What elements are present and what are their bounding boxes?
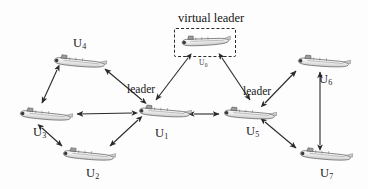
submarine-u2 bbox=[63, 147, 116, 161]
submarine-hull bbox=[298, 58, 349, 68]
submarine-sail bbox=[27, 108, 33, 112]
node-label-u2: U2 bbox=[86, 166, 99, 181]
submarine-u7 bbox=[300, 147, 353, 161]
node-label-base: U bbox=[73, 36, 82, 50]
leader-label-right: leader bbox=[243, 85, 271, 97]
submarine-sail bbox=[61, 55, 67, 59]
submarine-hull bbox=[224, 110, 275, 120]
submarine-hull bbox=[300, 150, 351, 161]
node-label-base: U bbox=[199, 58, 205, 67]
submarine-sail bbox=[231, 107, 237, 111]
node-label-base: U bbox=[319, 72, 328, 86]
submarine-u3 bbox=[20, 107, 73, 121]
node-label-base: U bbox=[33, 125, 42, 139]
submarine-sail bbox=[187, 36, 193, 40]
leader-label-left: leader bbox=[127, 83, 155, 95]
node-label-index: 3 bbox=[42, 131, 46, 140]
submarine-hull bbox=[139, 108, 190, 118]
nodes-layer bbox=[0, 0, 368, 189]
node-label-index: 5 bbox=[255, 130, 259, 139]
node-label-base: U bbox=[320, 166, 329, 180]
submarine-u0 bbox=[182, 33, 231, 47]
node-label-index: 1 bbox=[164, 132, 168, 141]
node-label-index: 7 bbox=[329, 172, 333, 181]
node-label-index: 4 bbox=[82, 42, 86, 51]
submarine-sail bbox=[307, 148, 313, 152]
submarine-hull bbox=[20, 110, 71, 121]
submarine-u6 bbox=[298, 55, 351, 68]
diagram-canvas: U0U1U2U3U4U5U6U7 virtual leader leader l… bbox=[0, 0, 368, 189]
node-label-base: U bbox=[86, 166, 95, 180]
node-label-u5: U5 bbox=[246, 124, 259, 139]
submarine-group bbox=[20, 33, 353, 161]
node-label-index: 6 bbox=[328, 78, 332, 87]
submarine-u5 bbox=[224, 107, 277, 120]
submarine-sail bbox=[305, 55, 311, 59]
node-label-u6: U6 bbox=[319, 72, 332, 87]
node-label-base: U bbox=[246, 124, 255, 138]
submarine-sail bbox=[70, 148, 76, 152]
node-label-index: 2 bbox=[95, 172, 99, 181]
submarine-hull bbox=[63, 150, 114, 161]
node-label-u7: U7 bbox=[320, 166, 333, 181]
node-label-index: 0 bbox=[205, 62, 208, 68]
submarine-hull bbox=[54, 57, 105, 68]
node-label-u0: U0 bbox=[199, 58, 208, 67]
node-label-base: U bbox=[155, 126, 164, 140]
virtual-leader-title: virtual leader bbox=[178, 11, 244, 26]
node-label-u4: U4 bbox=[73, 36, 86, 51]
submarine-u1 bbox=[139, 105, 192, 118]
node-label-u3: U3 bbox=[33, 125, 46, 140]
submarine-u4 bbox=[54, 54, 107, 68]
node-label-u1: U1 bbox=[155, 126, 168, 141]
submarine-sail bbox=[146, 105, 152, 109]
